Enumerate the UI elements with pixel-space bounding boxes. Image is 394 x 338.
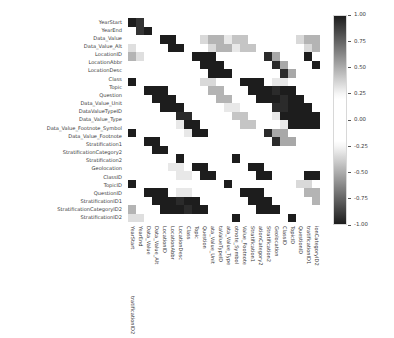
- heatmap-cell: [152, 146, 160, 155]
- heatmap-cell: [128, 129, 136, 138]
- heatmap-cell: [168, 214, 176, 223]
- heatmap-cell: [184, 52, 192, 61]
- heatmap-cell: [304, 103, 312, 112]
- heatmap-cell: [304, 18, 312, 27]
- heatmap-cell: [232, 69, 240, 78]
- heatmap-cell: [272, 146, 280, 155]
- heatmap-cell: [272, 188, 280, 197]
- heatmap-cell: [264, 86, 272, 95]
- heatmap-cell: [152, 112, 160, 121]
- heatmap-cell: [128, 120, 136, 129]
- heatmap-cell: [192, 35, 200, 44]
- heatmap-cell: [216, 180, 224, 189]
- heatmap-cell: [160, 163, 168, 172]
- heatmap-cell: [168, 27, 176, 36]
- heatmap-cell: [264, 61, 272, 70]
- heatmap-cell: [248, 197, 256, 206]
- heatmap-cell: [288, 112, 296, 121]
- x-tick-label: Geolocation: [272, 224, 280, 294]
- heatmap-cell: [176, 44, 184, 53]
- heatmap-cell: [216, 197, 224, 206]
- heatmap-cell: [192, 27, 200, 36]
- heatmap-cell: [304, 95, 312, 104]
- heatmap-cell: [192, 180, 200, 189]
- heatmap-cell: [192, 95, 200, 104]
- y-tick-label: StratificationCategoryID2: [0, 206, 125, 214]
- heatmap-cell: [176, 103, 184, 112]
- y-axis-tick-labels: YearStartYearEndData_ValueData_Value_Alt…: [0, 18, 125, 222]
- x-tick-label: tratificationID2: [128, 294, 136, 338]
- heatmap-cell: [168, 154, 176, 163]
- heatmap-cell: [248, 69, 256, 78]
- heatmap-cell: [232, 146, 240, 155]
- heatmap-cell: [272, 86, 280, 95]
- x-tick-label: Class: [184, 224, 192, 294]
- heatmap-cell: [168, 44, 176, 53]
- heatmap-cell: [216, 146, 224, 155]
- heatmap-cell: [216, 61, 224, 70]
- heatmap-cell: [312, 197, 320, 206]
- heatmap-cell: [296, 137, 304, 146]
- heatmap-cell: [296, 180, 304, 189]
- heatmap-cell: [280, 154, 288, 163]
- colorbar-tick-text: 0.50: [354, 64, 366, 69]
- x-tick-label: LocationID: [160, 224, 168, 294]
- x-tick-label: YearEnd: [136, 224, 144, 294]
- heatmap-cell: [160, 18, 168, 27]
- heatmap-cell: [280, 120, 288, 129]
- heatmap-cell: [208, 78, 216, 87]
- heatmap-cell: [144, 35, 152, 44]
- heatmap-cell: [168, 197, 176, 206]
- heatmap-cell: [312, 52, 320, 61]
- heatmap-cell: [304, 129, 312, 138]
- heatmap-cell: [144, 18, 152, 27]
- colorbar-tick-mark: [348, 225, 351, 226]
- colorbar-tick-text: 0.25: [354, 91, 366, 96]
- heatmap-cell: [288, 205, 296, 214]
- colorbar-tick-mark: [348, 120, 351, 121]
- heatmap-cell: [272, 197, 280, 206]
- heatmap-cell: [168, 52, 176, 61]
- heatmap-cell: [256, 129, 264, 138]
- heatmap-cell: [200, 154, 208, 163]
- heatmap-cell: [256, 197, 264, 206]
- heatmap-cell: [224, 180, 232, 189]
- heatmap-cell: [192, 188, 200, 197]
- heatmap-cell: [144, 171, 152, 180]
- heatmap-cell: [208, 163, 216, 172]
- heatmap-cell: [160, 171, 168, 180]
- heatmap-cell: [248, 44, 256, 53]
- heatmap-cell: [280, 137, 288, 146]
- heatmap-cell: [144, 163, 152, 172]
- heatmap-cell: [272, 154, 280, 163]
- heatmap-cell: [160, 44, 168, 53]
- heatmap-cell: [296, 188, 304, 197]
- heatmap-cell: [160, 103, 168, 112]
- heatmap-cell: [224, 78, 232, 87]
- heatmap-cell: [296, 86, 304, 95]
- heatmap-cell: [272, 112, 280, 121]
- heatmap-cell: [288, 163, 296, 172]
- heatmap-cell: [184, 27, 192, 36]
- heatmap-cell: [144, 188, 152, 197]
- heatmap-cell: [272, 35, 280, 44]
- heatmap-cell: [192, 61, 200, 70]
- heatmap-cell: [248, 95, 256, 104]
- heatmap-cell: [168, 163, 176, 172]
- heatmap-cell: [288, 27, 296, 36]
- heatmap-cell: [192, 163, 200, 172]
- heatmap-cell: [200, 129, 208, 138]
- heatmap-cell: [160, 61, 168, 70]
- heatmap-cell: [232, 44, 240, 53]
- heatmap-cell: [216, 214, 224, 223]
- heatmap-cell: [264, 180, 272, 189]
- heatmap-cell: [168, 188, 176, 197]
- heatmap-cell: [240, 129, 248, 138]
- heatmap-cell: [312, 44, 320, 53]
- heatmap-cell: [256, 95, 264, 104]
- heatmap-cell: [184, 86, 192, 95]
- heatmap-cell: [264, 18, 272, 27]
- heatmap-cell: [232, 95, 240, 104]
- heatmap-cell: [208, 44, 216, 53]
